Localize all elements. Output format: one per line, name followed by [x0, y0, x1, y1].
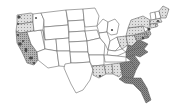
spot-sacramento [22, 40, 24, 42]
state-maine [159, 6, 169, 18]
state-kentucky [107, 49, 126, 56]
spot-new-york-metro [147, 28, 150, 31]
spot-bay-area [18, 42, 22, 45]
spot-great-lakes [111, 29, 113, 31]
spot-puget-sound [17, 16, 20, 19]
state-colorado [56, 38, 70, 51]
spot-gulf-coast [99, 75, 102, 77]
state-tennessee [104, 55, 126, 62]
spot-los-angeles [29, 56, 33, 59]
state-oklahoma [70, 52, 90, 63]
state-wisconsin [97, 19, 108, 33]
state-michigan [107, 19, 119, 35]
spot-chesapeake [142, 37, 145, 39]
spot-central-valley [25, 48, 28, 52]
state-kansas [69, 41, 88, 52]
spot-idaho-panhandle [35, 17, 37, 19]
spot-northern-california [17, 34, 19, 36]
state-nebraska [69, 31, 87, 42]
spot-san-diego [33, 62, 35, 64]
state-arizona [37, 49, 59, 68]
us-distribution-map [0, 0, 172, 108]
spot-portland [17, 23, 19, 25]
state-texas [64, 62, 93, 93]
state-florida [119, 77, 151, 103]
state-minnesota [83, 8, 99, 27]
state-south-dakota [68, 20, 85, 32]
map-svg [0, 0, 172, 108]
state-north-dakota [66, 9, 84, 21]
state-montana [41, 10, 68, 27]
state-wyoming [44, 25, 69, 40]
state-arkansas [89, 55, 104, 66]
spot-boston [157, 20, 159, 22]
states-layer [16, 6, 169, 103]
